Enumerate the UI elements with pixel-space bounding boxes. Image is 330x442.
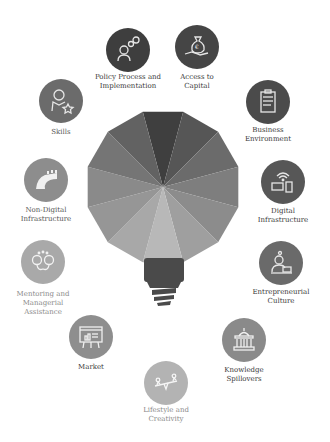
market-label: Market [36,363,146,372]
digital-badge [261,160,305,204]
entrepreneurial-label: Entrepreneurial Culture [226,288,330,306]
lifestyle-label: Lifestyle and Creativity [111,406,221,424]
mentoring-badge [21,240,65,284]
digital-label: Digital Infrastructure [228,207,330,225]
bulb-neck [144,258,184,282]
nondigital-label: Non-Digital Infrastructure [0,206,101,224]
knowledge-badge [222,318,266,362]
gears-person-icon [113,35,143,65]
entrepreneurial-badge [259,241,303,285]
skills-label: Skills [6,128,116,137]
person-star-icon [46,86,76,116]
building-columns-icon [229,325,259,355]
road-bridge-icon [31,165,61,195]
svg-text:€: € [194,43,199,50]
mentoring-label: Mentoring and Managerial Assistance [0,290,98,317]
nondigital-badge [24,158,68,202]
wifi-devices-icon [268,167,298,197]
business-label: Business Environment [213,126,323,144]
person-laptop-icon [266,248,296,278]
seesaw-icon [151,368,181,398]
skills-badge [39,79,83,123]
bulb-screw-base [146,280,182,306]
money-bag-hand-icon: € [182,32,212,62]
capital-label: Access to Capital [142,73,252,91]
two-heads-icon [28,247,58,277]
policy-badge [106,28,150,72]
lifestyle-badge [144,361,188,405]
business-badge [246,80,290,124]
market-badge [69,315,113,359]
clipboard-icon [253,87,283,117]
capital-badge: € [175,25,219,69]
knowledge-label: Knowledge Spillovers [189,366,299,384]
presentation-board-icon [76,322,106,352]
